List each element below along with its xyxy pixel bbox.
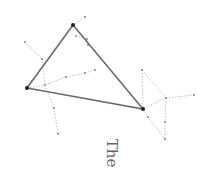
aux-node bbox=[57, 133, 59, 135]
triangle-edges bbox=[27, 25, 143, 109]
aux-node bbox=[84, 16, 86, 18]
aux-edge bbox=[45, 77, 66, 85]
aux-edge bbox=[85, 70, 95, 73]
network-graph bbox=[0, 0, 197, 174]
aux-edge bbox=[54, 108, 58, 134]
aux-node bbox=[164, 138, 166, 140]
aux-node bbox=[94, 69, 96, 71]
aux-edge bbox=[76, 36, 87, 39]
triangle-vertex bbox=[25, 86, 29, 90]
aux-node bbox=[164, 121, 166, 123]
aux-node bbox=[86, 38, 88, 40]
aux-edge bbox=[148, 117, 165, 139]
triangle-vertex bbox=[141, 107, 145, 111]
triangle-vertex bbox=[71, 23, 75, 27]
diagram-canvas: The bbox=[0, 0, 197, 174]
aux-node bbox=[193, 94, 195, 96]
aux-node bbox=[165, 97, 167, 99]
aux-node bbox=[65, 76, 67, 78]
aux-node bbox=[75, 35, 77, 37]
aux-node bbox=[147, 116, 149, 118]
aux-edge bbox=[73, 17, 85, 25]
aux-edge bbox=[25, 42, 42, 59]
rotated-label: The bbox=[104, 133, 120, 173]
aux-edge bbox=[165, 98, 166, 122]
aux-node bbox=[41, 58, 43, 60]
aux-edge bbox=[143, 98, 166, 109]
aux-node bbox=[24, 41, 26, 43]
aux-edge bbox=[66, 73, 85, 77]
aux-edge bbox=[166, 95, 194, 98]
aux-node bbox=[44, 84, 46, 86]
aux-edge bbox=[142, 70, 143, 109]
aux-edge bbox=[45, 85, 54, 108]
aux-node bbox=[141, 69, 143, 71]
aux-node bbox=[84, 72, 86, 74]
aux-node bbox=[53, 107, 55, 109]
aux-edge bbox=[142, 70, 166, 98]
